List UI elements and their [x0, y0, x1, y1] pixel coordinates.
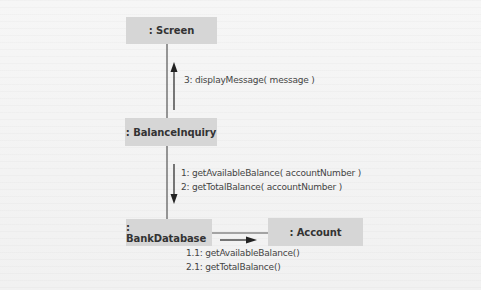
arrow-down-icon	[171, 164, 178, 204]
object-bank-database-label: : BankDatabase	[126, 222, 212, 244]
object-screen-label: : Screen	[149, 25, 194, 36]
message-display-message: 3: displayMessage( message )	[184, 75, 315, 85]
message-get-available-balance: 1: getAvailableBalance( accountNumber )	[181, 168, 361, 178]
object-account-label: : Account	[289, 227, 341, 238]
arrow-up-icon	[171, 62, 178, 110]
object-balance-inquiry[interactable]: : BalanceInquiry	[125, 118, 217, 146]
object-balance-inquiry-label: : BalanceInquiry	[126, 127, 216, 138]
message-account-get-available-balance: 1.1: getAvailableBalance()	[186, 248, 299, 258]
object-bank-database[interactable]: : BankDatabase	[126, 219, 212, 246]
object-account[interactable]: : Account	[268, 218, 363, 246]
connector-layer	[0, 0, 481, 290]
message-get-total-balance: 2: getTotalBalance( accountNumber )	[181, 182, 342, 192]
arrow-right-icon	[220, 237, 257, 244]
message-account-get-total-balance: 2.1: getTotalBalance()	[186, 262, 281, 272]
object-screen[interactable]: : Screen	[126, 17, 217, 44]
